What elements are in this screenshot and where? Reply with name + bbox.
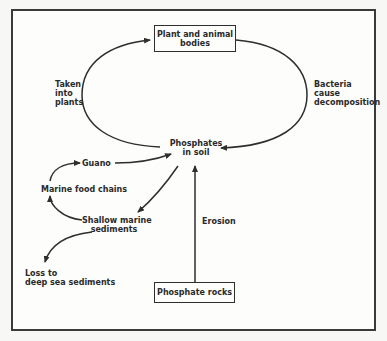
node-phosphate-rocks: Phosphate rocks [154, 282, 235, 303]
arrow-guano-to-soil [115, 154, 171, 163]
node-guano: Guano [82, 159, 111, 168]
node-plant-animal-bodies: Plant and animal bodies [154, 25, 236, 52]
label-bacteria-decomposition: Bacteria cause decomposition [314, 80, 380, 107]
label-taken-into-plants: Taken into plants [55, 80, 83, 107]
arrow-decomposition [221, 40, 307, 148]
node-phosphates-in-soil: Phosphates in soil [168, 139, 224, 157]
arrow-soil-to-sediments [138, 166, 178, 212]
label-erosion: Erosion [202, 217, 236, 226]
arrow-taken-into-plants [82, 40, 160, 147]
node-marine-food-chains: Marine food chains [41, 185, 127, 194]
node-shallow-marine-sediments: Shallow marine sediments [82, 216, 146, 234]
node-loss-deep-sea: Loss to deep sea sediments [25, 269, 115, 287]
arrow-sediments-to-deepsea [45, 232, 92, 262]
arrow-foodchains-to-guano [50, 163, 80, 181]
arrow-sediments-to-foodchains [50, 196, 82, 220]
